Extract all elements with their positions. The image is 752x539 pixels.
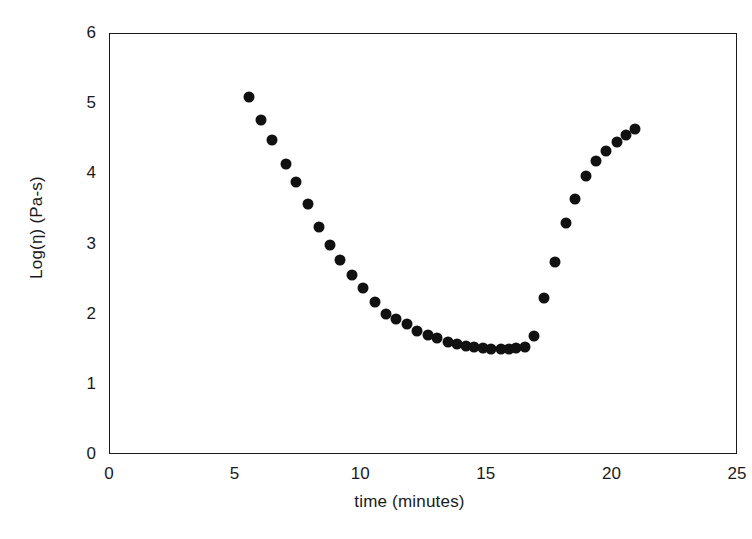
y-tick-label: 2	[68, 305, 96, 322]
x-tick-label: 5	[210, 465, 260, 482]
y-tick-label: 1	[68, 375, 96, 392]
x-tick-label: 15	[461, 465, 511, 482]
x-axis-tick-labels: 0510152025	[0, 465, 752, 489]
x-tick-label: 20	[586, 465, 636, 482]
y-tick-label: 5	[68, 94, 96, 111]
y-tick-label: 3	[68, 235, 96, 252]
y-axis-tick-labels: 0123456	[60, 0, 96, 539]
x-tick-label: 0	[84, 465, 134, 482]
y-tick-label: 6	[68, 24, 96, 41]
scatter-plot-figure: 0123456 Log(η) (Pa-s) 0510152025 time (m…	[0, 0, 752, 539]
y-axis-title: Log(η) (Pa-s)	[22, 0, 52, 455]
y-tick-label: 4	[68, 164, 96, 181]
x-tick-label: 10	[335, 465, 385, 482]
x-axis-title: time (minutes)	[109, 492, 710, 512]
x-tick-label: 25	[712, 465, 752, 482]
plot-frame	[109, 33, 737, 454]
y-tick-label: 0	[68, 445, 96, 462]
